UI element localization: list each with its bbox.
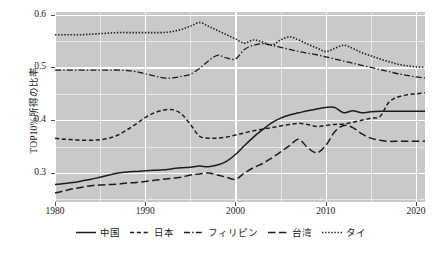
- legend-item-台湾[interactable]: 台湾: [267, 225, 312, 239]
- plot-panel: [55, 12, 425, 202]
- legend-label: 日本: [154, 225, 174, 239]
- legend-label: 中国: [100, 225, 120, 239]
- y-tick-mark: [51, 15, 55, 16]
- legend-label: フィリピン: [208, 225, 258, 239]
- legend-key-longdash: [267, 227, 289, 238]
- y-tick-mark: [51, 67, 55, 68]
- y-tick-mark: [51, 120, 55, 121]
- legend-item-日本[interactable]: 日本: [129, 225, 174, 239]
- y-tick-label: 0.6: [0, 9, 46, 19]
- legend-key-dashdot: [183, 227, 205, 238]
- series-line-フィリピン: [55, 44, 425, 79]
- x-tick-label: 2000: [205, 206, 265, 216]
- y-tick-label: 0.4: [0, 114, 46, 124]
- legend-key-dotted: [321, 227, 343, 238]
- y-tick-mark: [51, 173, 55, 174]
- legend-label: タイ: [346, 225, 366, 239]
- chart-figure: TOP10%所得の比率 0.30.40.50.6 198019902000201…: [0, 0, 440, 254]
- legend-key-solid: [75, 227, 97, 238]
- x-tick-label: 1980: [25, 206, 85, 216]
- series-line-タイ: [55, 23, 425, 68]
- x-tick-label: 2020: [386, 206, 440, 216]
- legend-item-中国[interactable]: 中国: [75, 225, 120, 239]
- series-line-台湾: [55, 125, 425, 193]
- x-tick-label: 2010: [296, 206, 356, 216]
- series-lines: [55, 12, 425, 202]
- legend-key-dashed: [129, 227, 151, 238]
- y-tick-label: 0.3: [0, 167, 46, 177]
- legend-label: 台湾: [292, 225, 312, 239]
- legend-item-タイ[interactable]: タイ: [321, 225, 366, 239]
- x-tick-label: 1990: [115, 206, 175, 216]
- legend-item-フィリピン[interactable]: フィリピン: [183, 225, 258, 239]
- series-line-日本: [55, 93, 425, 141]
- y-tick-label: 0.5: [0, 61, 46, 71]
- chart-legend: 中国日本フィリピン台湾タイ: [0, 225, 440, 239]
